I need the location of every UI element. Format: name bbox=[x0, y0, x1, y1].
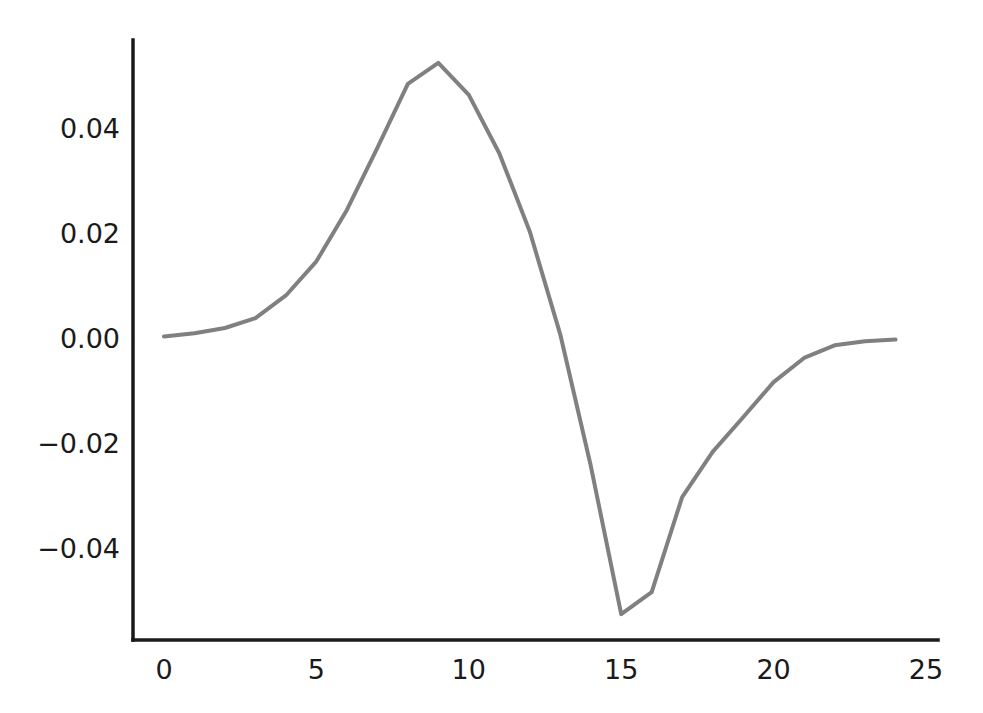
x-tick-label: 15 bbox=[604, 656, 638, 683]
line-series-signal bbox=[164, 63, 896, 614]
y-tick-label: −0.02 bbox=[37, 430, 120, 457]
data-series-group bbox=[164, 63, 896, 614]
y-tick-label: 0.04 bbox=[60, 115, 120, 142]
chart-figure: 0.040.020.00−0.02−0.04 0510152025 bbox=[0, 0, 983, 713]
axis-spines bbox=[133, 40, 938, 640]
x-tick-label: 0 bbox=[155, 656, 172, 683]
x-tick-label: 10 bbox=[452, 656, 486, 683]
y-tick-label: 0.00 bbox=[60, 325, 120, 352]
y-tick-label: −0.04 bbox=[37, 535, 120, 562]
x-tick-label: 20 bbox=[756, 656, 790, 683]
plot-canvas bbox=[0, 0, 983, 713]
x-tick-label: 25 bbox=[909, 656, 943, 683]
x-tick-label: 5 bbox=[308, 656, 325, 683]
y-tick-label: 0.02 bbox=[60, 220, 120, 247]
